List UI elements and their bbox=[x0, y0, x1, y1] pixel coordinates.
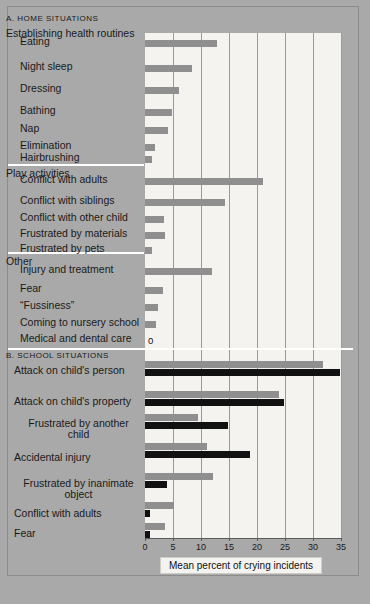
tick-label: 0 bbox=[142, 542, 147, 552]
row-label: Attack on child's person bbox=[0, 365, 143, 376]
bar bbox=[145, 144, 155, 151]
bar bbox=[145, 510, 150, 517]
bar bbox=[145, 391, 279, 398]
tick-mark bbox=[257, 538, 258, 541]
plot-area bbox=[145, 33, 341, 538]
tick-label: 10 bbox=[196, 542, 206, 552]
bar bbox=[145, 502, 174, 509]
row-label: Conflict with adults bbox=[0, 174, 143, 185]
bar bbox=[145, 481, 167, 488]
x-axis-title: Mean percent of crying incidents bbox=[160, 557, 322, 574]
bar bbox=[145, 40, 217, 47]
tick-label: 15 bbox=[224, 542, 234, 552]
bar bbox=[145, 443, 207, 450]
tick-mark bbox=[341, 538, 342, 541]
tick-label: 5 bbox=[170, 542, 175, 552]
row-label: Conflict with siblings bbox=[0, 195, 143, 206]
bar bbox=[145, 304, 158, 311]
bar bbox=[145, 178, 263, 185]
row-label: Eating bbox=[0, 36, 143, 47]
row-label: Frustrated by inanimate object bbox=[0, 478, 143, 500]
gridline bbox=[313, 33, 314, 538]
bar bbox=[145, 109, 172, 116]
bar bbox=[145, 247, 152, 254]
bar bbox=[145, 87, 179, 94]
gridline bbox=[201, 33, 202, 538]
section-header-school: B. SCHOOL SITUATIONS bbox=[6, 351, 109, 360]
tick-mark bbox=[285, 538, 286, 541]
row-label: Injury and treatment bbox=[0, 264, 143, 275]
bar bbox=[145, 523, 165, 530]
bar bbox=[145, 268, 212, 275]
row-label: “Fussiness” bbox=[0, 300, 143, 311]
figure-container: A. HOME SITUATIONS Establishing health r… bbox=[0, 0, 370, 604]
row-label: Coming to nursery school bbox=[0, 317, 143, 328]
bar bbox=[145, 451, 250, 458]
row-label: Frustrated by pets bbox=[0, 243, 143, 254]
gridline bbox=[257, 33, 258, 538]
bar bbox=[145, 531, 150, 538]
bar bbox=[145, 199, 225, 206]
row-label: Frustrated by materials bbox=[0, 228, 143, 239]
section-header-home: A. HOME SITUATIONS bbox=[6, 14, 98, 23]
tick-mark bbox=[313, 538, 314, 541]
bar bbox=[145, 414, 198, 421]
bar bbox=[145, 287, 163, 294]
row-label: Hairbrushing bbox=[0, 152, 143, 163]
tick-mark bbox=[145, 538, 146, 541]
bar bbox=[145, 422, 228, 429]
bar bbox=[145, 321, 156, 328]
bar bbox=[145, 127, 168, 134]
bar bbox=[145, 473, 213, 480]
gridline bbox=[285, 33, 286, 538]
gridline bbox=[341, 33, 342, 538]
bar bbox=[145, 232, 165, 239]
gridlines bbox=[145, 33, 341, 538]
bar bbox=[145, 156, 152, 163]
row-label: Attack on child's property bbox=[0, 396, 143, 407]
tick-label: 30 bbox=[308, 542, 318, 552]
row-label: Conflict with adults bbox=[0, 508, 143, 519]
divider-other-school bbox=[8, 348, 353, 350]
gridline bbox=[229, 33, 230, 538]
tick-mark bbox=[201, 538, 202, 541]
row-label: Elimination bbox=[0, 140, 143, 151]
zero-value-label: 0 bbox=[148, 335, 153, 346]
bar bbox=[145, 216, 164, 223]
row-label: Night sleep bbox=[0, 61, 143, 72]
row-label: Fear bbox=[0, 283, 143, 294]
row-label: Bathing bbox=[0, 105, 143, 116]
bar bbox=[145, 361, 323, 368]
row-label: Accidental injury bbox=[0, 452, 143, 463]
tick-label: 25 bbox=[280, 542, 290, 552]
tick-mark bbox=[229, 538, 230, 541]
bar bbox=[145, 369, 340, 376]
row-label: Dressing bbox=[0, 83, 143, 94]
bar bbox=[145, 65, 192, 72]
tick-mark bbox=[173, 538, 174, 541]
row-label: Medical and dental care bbox=[0, 333, 143, 344]
tick-label: 20 bbox=[252, 542, 262, 552]
row-label: Fear bbox=[0, 528, 143, 539]
tick-label: 35 bbox=[336, 542, 346, 552]
row-label: Nap bbox=[0, 123, 143, 134]
divider-health-play bbox=[8, 164, 144, 166]
gridline bbox=[173, 33, 174, 538]
row-label: Conflict with other child bbox=[0, 212, 143, 223]
x-axis-line bbox=[145, 538, 341, 539]
bar bbox=[145, 399, 284, 406]
row-label: Frustrated by another child bbox=[0, 418, 143, 440]
